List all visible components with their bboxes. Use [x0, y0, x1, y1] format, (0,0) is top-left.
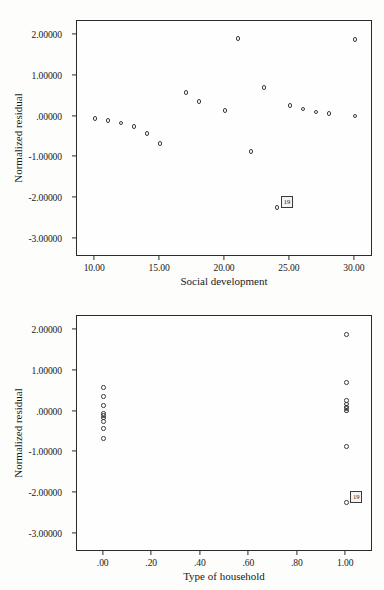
y-tick-mark	[72, 115, 76, 116]
data-point	[119, 121, 124, 126]
x-tick-mark	[158, 256, 159, 260]
data-point	[249, 149, 254, 154]
y-tick-label: -2.00000	[28, 192, 62, 203]
x-tick-label: 25.00	[278, 262, 299, 273]
data-point	[353, 37, 358, 42]
x-axis-label: Social development	[180, 275, 267, 287]
data-point	[101, 436, 106, 441]
y-tick-mark	[72, 74, 76, 75]
x-tick-mark	[151, 551, 152, 555]
y-tick-mark	[72, 237, 76, 238]
data-point	[344, 409, 349, 414]
y-tick-mark	[72, 196, 76, 197]
data-point	[197, 99, 202, 104]
data-point	[344, 332, 349, 337]
y-tick-mark	[72, 369, 76, 370]
data-point	[288, 103, 293, 108]
x-tick-mark	[353, 256, 354, 260]
data-point	[344, 500, 349, 505]
data-point	[236, 36, 241, 41]
y-axis-label: Normalized residual	[12, 388, 24, 478]
data-point	[314, 110, 319, 115]
y-tick-mark	[72, 156, 76, 157]
data-point	[275, 205, 280, 210]
y-tick-label: 2.00000	[32, 29, 62, 40]
plot-area-2: 19	[76, 315, 372, 551]
data-point	[101, 403, 106, 408]
y-tick-label: 1.00000	[32, 69, 62, 80]
x-tick-label: 20.00	[213, 262, 234, 273]
data-point	[344, 380, 349, 385]
x-tick-mark	[345, 551, 346, 555]
y-tick-label: -2.00000	[28, 487, 62, 498]
x-tick-label: 15.00	[149, 262, 170, 273]
data-point	[301, 107, 306, 112]
x-tick-label: .40	[194, 557, 206, 568]
residual-plot-type-of-household: 19 2.000001.00000.00000-1.00000-2.00000-…	[0, 295, 384, 590]
data-point	[93, 116, 98, 121]
x-tick-mark	[102, 551, 103, 555]
x-tick-mark	[94, 256, 95, 260]
x-tick-label: .60	[242, 557, 254, 568]
x-tick-mark	[199, 551, 200, 555]
y-tick-label: .00000	[36, 405, 62, 416]
data-point	[101, 419, 106, 424]
data-point	[101, 394, 106, 399]
y-tick-label: -3.00000	[28, 527, 62, 538]
data-point	[132, 124, 137, 129]
residual-plot-social-development: 19 2.000001.00000.00000-1.00000-2.00000-…	[0, 0, 384, 295]
data-point	[101, 385, 106, 390]
data-point	[106, 118, 111, 123]
data-point	[184, 90, 189, 95]
y-tick-mark	[72, 34, 76, 35]
x-tick-label: 30.00	[343, 262, 364, 273]
x-tick-label: .00	[97, 557, 109, 568]
x-tick-mark	[223, 256, 224, 260]
y-tick-mark	[72, 451, 76, 452]
y-tick-label: -1.00000	[28, 151, 62, 162]
data-point	[101, 426, 106, 431]
case-label-badge: 19	[281, 196, 293, 208]
y-tick-mark	[72, 532, 76, 533]
y-tick-mark	[72, 410, 76, 411]
data-point	[353, 114, 358, 119]
y-tick-label: 2.00000	[32, 324, 62, 335]
y-tick-label: 1.00000	[32, 364, 62, 375]
y-tick-label: -1.00000	[28, 446, 62, 457]
x-axis-label: Type of household	[183, 570, 265, 582]
x-tick-label: 1.00	[337, 557, 353, 568]
x-tick-mark	[296, 551, 297, 555]
plot-area-1: 19	[76, 20, 372, 256]
y-axis-label: Normalized residual	[12, 93, 24, 183]
x-tick-label: 10.00	[84, 262, 105, 273]
y-tick-mark	[72, 491, 76, 492]
data-point	[327, 111, 332, 116]
data-point	[158, 141, 163, 146]
data-point	[262, 85, 267, 90]
case-label-badge: 19	[350, 491, 362, 503]
x-tick-mark	[288, 256, 289, 260]
x-tick-label: .20	[145, 557, 157, 568]
data-point	[344, 444, 349, 449]
x-tick-mark	[248, 551, 249, 555]
y-tick-mark	[72, 329, 76, 330]
y-tick-label: -3.00000	[28, 232, 62, 243]
x-tick-label: .80	[291, 557, 303, 568]
data-point	[223, 108, 228, 113]
y-tick-label: .00000	[36, 110, 62, 121]
data-point	[145, 131, 150, 136]
